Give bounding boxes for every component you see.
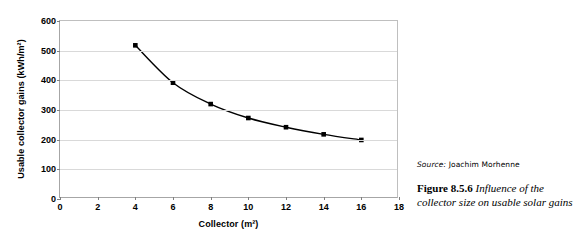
gridline-y: [60, 169, 397, 170]
x-tick-label: 16: [356, 203, 366, 212]
figure-caption: Figure 8.5.6 Influence of the collector …: [417, 182, 575, 209]
x-axis-title: Collector (m²): [59, 219, 398, 229]
y-tick-mark: [57, 21, 60, 22]
x-tick-label: 14: [319, 203, 329, 212]
plot-inner: 0100200300400500600024681012141618: [60, 21, 397, 197]
x-tick-label: 6: [170, 203, 175, 212]
x-tick-mark: [248, 197, 249, 200]
y-tick-mark: [57, 110, 60, 111]
x-tick-mark: [173, 197, 174, 200]
x-tick-mark: [211, 197, 212, 200]
plot-area: 0100200300400500600024681012141618: [59, 20, 398, 198]
x-tick-mark: [135, 197, 136, 200]
x-tick-mark: [98, 197, 99, 200]
y-tick-label: 0: [51, 195, 56, 204]
x-tick-label: 10: [243, 203, 253, 212]
y-tick-label: 600: [41, 17, 56, 26]
gridline-y: [60, 51, 397, 52]
y-tick-mark: [57, 51, 60, 52]
data-point-marker: [284, 125, 289, 130]
x-tick-mark: [324, 197, 325, 200]
x-tick-label: 4: [133, 203, 138, 212]
y-tick-label: 200: [41, 135, 56, 144]
gridline-y: [60, 80, 397, 81]
y-tick-mark: [57, 140, 60, 141]
y-axis-title: Usable collector gains (kWh/m²): [14, 20, 28, 198]
y-tick-label: 400: [41, 76, 56, 85]
x-tick-label: 18: [394, 203, 404, 212]
data-point-marker: [321, 132, 326, 137]
gridline-y: [60, 140, 397, 141]
source-name: Joachim Morhenne: [449, 160, 520, 169]
x-tick-mark: [399, 197, 400, 200]
x-tick-label: 12: [281, 203, 291, 212]
data-point-marker: [246, 116, 251, 121]
y-tick-mark: [57, 80, 60, 81]
x-tick-label: 0: [57, 203, 62, 212]
x-tick-mark: [286, 197, 287, 200]
gridline-y: [60, 110, 397, 111]
source-label: Source:: [417, 160, 446, 169]
figure-number: Figure 8.5.6: [417, 182, 473, 194]
x-tick-label: 2: [95, 203, 100, 212]
x-tick-mark: [361, 197, 362, 200]
y-tick-label: 300: [41, 106, 56, 115]
figure-chart: Usable collector gains (kWh/m²) 01002003…: [0, 0, 404, 247]
y-tick-label: 100: [41, 165, 56, 174]
series-curve: [135, 45, 361, 140]
x-tick-label: 8: [208, 203, 213, 212]
y-tick-label: 500: [41, 46, 56, 55]
caption-block: Source: Joachim Morhenne Figure 8.5.6 In…: [404, 0, 576, 247]
data-point-marker: [133, 43, 138, 48]
data-point-marker: [208, 102, 213, 107]
x-tick-mark: [60, 197, 61, 200]
source-credit: Source: Joachim Morhenne: [417, 160, 520, 169]
y-tick-mark: [57, 169, 60, 170]
